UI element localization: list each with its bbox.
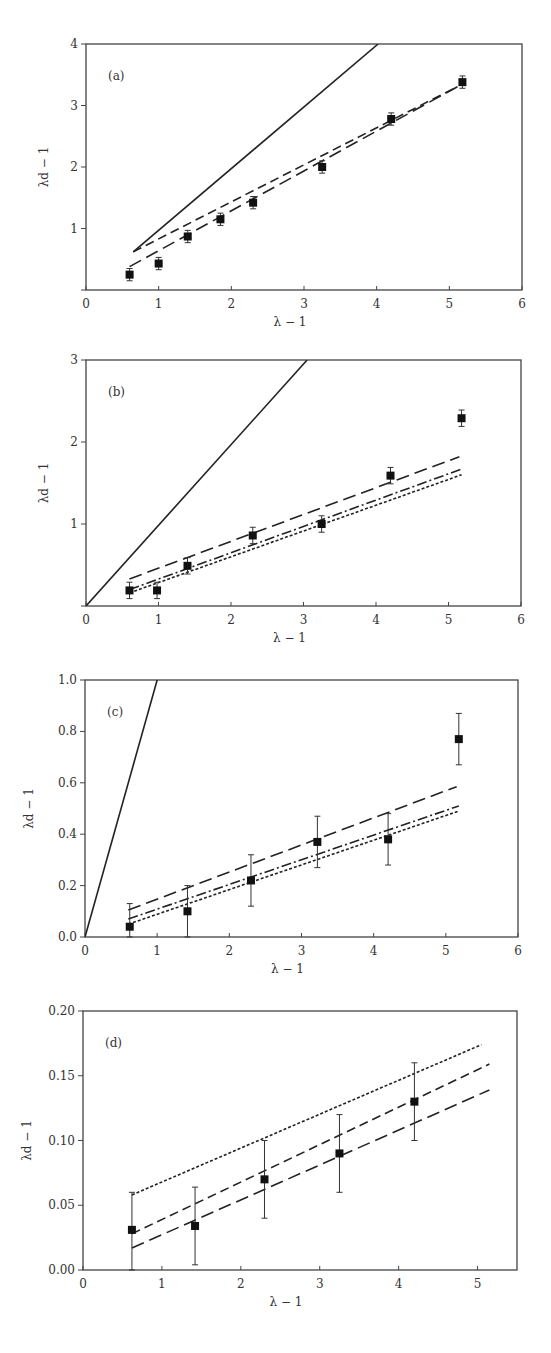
data-point — [126, 268, 134, 280]
x-tick-label: 1 — [155, 297, 163, 311]
square-marker-icon — [126, 586, 134, 594]
square-marker-icon — [153, 586, 161, 594]
square-marker-icon — [184, 562, 192, 570]
square-marker-icon — [260, 1175, 268, 1183]
y-tick-label: 0.10 — [48, 1134, 75, 1148]
panel-letter: (a) — [108, 69, 125, 83]
y-tick-label: 0.00 — [48, 1263, 75, 1277]
panel-b: 0123456123λ − 1λd − 1(b) — [37, 353, 525, 645]
x-tick-label: 4 — [373, 297, 381, 311]
square-marker-icon — [410, 1098, 418, 1106]
data-point — [387, 113, 395, 125]
data-point — [458, 76, 466, 88]
x-tick-label: 1 — [155, 613, 163, 627]
x-tick-label: 2 — [227, 613, 235, 627]
data-point — [249, 197, 257, 209]
square-marker-icon — [387, 472, 395, 480]
square-marker-icon — [249, 531, 257, 539]
square-marker-icon — [384, 835, 392, 843]
y-tick-label: 3 — [70, 353, 78, 367]
y-tick-label: 0.20 — [48, 1004, 75, 1018]
y-tick-label: 1 — [70, 517, 78, 531]
data-point — [387, 467, 395, 483]
square-marker-icon — [313, 838, 321, 846]
y-tick-label: 1.0 — [58, 673, 77, 687]
x-tick-label: 1 — [153, 944, 161, 958]
model-line-dashed-long — [128, 787, 456, 910]
x-tick-label: 5 — [446, 297, 454, 311]
x-tick-label: 0 — [79, 1277, 87, 1291]
panel-letter: (d) — [105, 1036, 122, 1050]
x-tick-label: 4 — [395, 1277, 403, 1291]
model-line-solid — [133, 44, 378, 252]
data-point — [260, 1141, 268, 1219]
x-tick-label: 6 — [518, 297, 526, 311]
y-tick-label: 0.15 — [48, 1069, 75, 1083]
y-tick-label: 0.0 — [58, 930, 77, 944]
data-point — [458, 410, 466, 426]
panel-letter: (c) — [107, 705, 123, 719]
plot-frame — [83, 1011, 517, 1270]
model-line-dotted-short — [128, 811, 459, 924]
x-tick-label: 2 — [228, 297, 236, 311]
data-point — [183, 886, 191, 937]
square-marker-icon — [247, 876, 255, 884]
data-point — [155, 257, 163, 269]
square-marker-icon — [155, 260, 163, 268]
x-tick-label: 4 — [370, 944, 378, 958]
x-tick-label: 0 — [82, 613, 90, 627]
data-point — [335, 1115, 343, 1193]
y-tick-label: 1 — [70, 222, 78, 236]
model-line-dashed-long — [130, 84, 463, 267]
x-tick-label: 3 — [300, 297, 308, 311]
plot-frame — [86, 44, 522, 290]
square-marker-icon — [458, 78, 466, 86]
data-point — [384, 814, 392, 865]
y-axis-label: λd − 1 — [22, 788, 36, 829]
y-tick-label: 2 — [70, 435, 78, 449]
multi-panel-chart: 01234561234λ − 1λd − 1(a)0123456123λ − 1… — [0, 0, 551, 1353]
data-point — [191, 1187, 199, 1265]
model-line-dashed-long — [132, 1090, 489, 1248]
data-point — [128, 1192, 136, 1270]
square-marker-icon — [128, 1226, 136, 1234]
y-tick-label: 4 — [70, 37, 78, 51]
y-tick-label: 0.8 — [58, 724, 77, 738]
panel-c: 01234560.00.20.40.60.81.0λ − 1λd − 1(c) — [22, 673, 522, 976]
x-tick-label: 6 — [514, 944, 522, 958]
model-line-dotted-short — [130, 475, 462, 593]
model-line-dotted-short — [132, 1045, 482, 1195]
data-point — [410, 1063, 418, 1141]
x-axis-label: λ − 1 — [270, 1295, 303, 1309]
x-tick-label: 5 — [442, 944, 450, 958]
square-marker-icon — [126, 923, 134, 931]
data-point — [184, 230, 192, 242]
panel-d: 0123450.000.050.100.150.20λ − 1λd − 1(d) — [20, 1004, 517, 1309]
x-tick-label: 3 — [316, 1277, 324, 1291]
model-line-dash-dot — [128, 806, 459, 919]
square-marker-icon — [455, 735, 463, 743]
x-tick-label: 1 — [158, 1277, 166, 1291]
x-tick-label: 5 — [474, 1277, 482, 1291]
y-tick-label: 0.05 — [48, 1198, 75, 1212]
x-tick-label: 4 — [372, 613, 380, 627]
square-marker-icon — [184, 232, 192, 240]
x-tick-label: 6 — [517, 613, 525, 627]
x-tick-label: 2 — [226, 944, 234, 958]
square-marker-icon — [183, 907, 191, 915]
data-point — [126, 582, 134, 598]
y-tick-label: 0.4 — [58, 827, 77, 841]
data-point — [455, 713, 463, 764]
model-line-dashed-medium — [132, 1064, 489, 1234]
y-tick-label: 0.2 — [58, 879, 77, 893]
model-line-dashed-short — [133, 87, 456, 252]
square-marker-icon — [318, 163, 326, 171]
x-tick-label: 0 — [81, 944, 89, 958]
square-marker-icon — [318, 520, 326, 528]
panel-a: 01234561234λ − 1λd − 1(a) — [37, 37, 526, 329]
x-tick-label: 0 — [82, 297, 90, 311]
y-axis-label: λd − 1 — [20, 1120, 34, 1161]
x-tick-label: 5 — [445, 613, 453, 627]
square-marker-icon — [216, 215, 224, 223]
data-point — [184, 558, 192, 574]
